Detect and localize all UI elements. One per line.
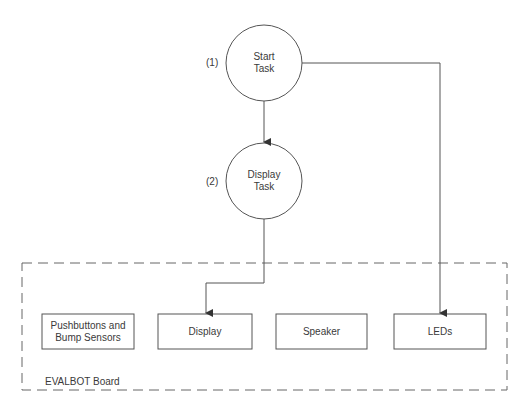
display-task-label-line1: Display	[234, 169, 294, 181]
speaker-label: Speaker	[276, 314, 367, 349]
edge-display-task-to-display	[206, 219, 264, 313]
display-task-number: (2)	[206, 176, 218, 187]
display-task-label: Display Task	[234, 169, 294, 193]
pushbuttons-label: Pushbuttons and Bump Sensors	[42, 314, 134, 349]
start-task-label: Start Task	[234, 51, 294, 75]
start-task-number: (1)	[206, 57, 218, 68]
pushbuttons-label-line2: Bump Sensors	[50, 332, 125, 344]
evalbot-board-label: EVALBOT Board	[45, 376, 120, 387]
start-task-label-line1: Start	[234, 51, 294, 63]
display-task-label-line2: Task	[234, 181, 294, 193]
start-task-label-line2: Task	[234, 63, 294, 75]
leds-label: LEDs	[394, 314, 486, 349]
pushbuttons-label-line1: Pushbuttons and	[50, 320, 125, 332]
display-label: Display	[158, 314, 252, 349]
edge-start-to-leds	[302, 63, 440, 313]
